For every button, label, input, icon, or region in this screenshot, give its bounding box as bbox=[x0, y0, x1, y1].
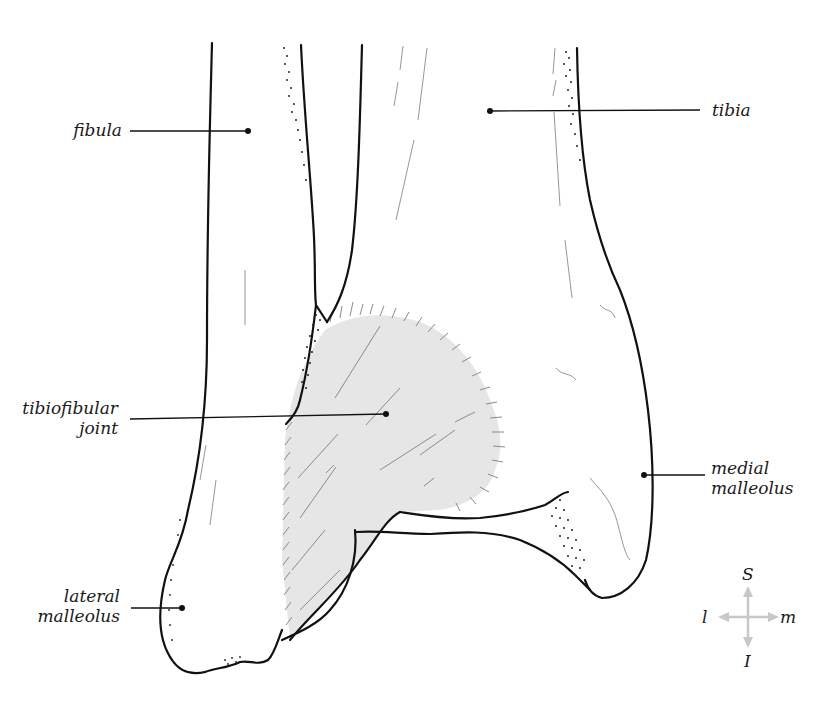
label-tibiofibular-line2: joint bbox=[0, 418, 118, 438]
ankle-bones-illustration bbox=[0, 0, 823, 704]
label-lateral-line1: lateral bbox=[0, 586, 120, 606]
compass-medial-label: m bbox=[780, 608, 796, 626]
label-tibia: tibia bbox=[712, 100, 751, 120]
label-medial-malleolus: medial malleolus bbox=[711, 458, 794, 498]
label-fibula: fibula bbox=[30, 120, 122, 140]
compass-inferior-label: I bbox=[744, 652, 751, 670]
label-tibiofibular-joint: tibiofibular joint bbox=[0, 398, 118, 438]
label-medial-line2: malleolus bbox=[711, 478, 794, 498]
compass-lateral-label: l bbox=[702, 608, 707, 626]
tibia-leader bbox=[490, 110, 700, 111]
label-lateral-line2: malleolus bbox=[0, 606, 120, 626]
label-tibiofibular-line1: tibiofibular bbox=[0, 398, 118, 418]
label-lateral-malleolus: lateral malleolus bbox=[0, 586, 120, 626]
arrow-down-icon bbox=[743, 637, 753, 648]
arrow-left-icon bbox=[718, 612, 729, 622]
label-medial-line1: medial bbox=[711, 458, 794, 478]
anatomy-figure: fibula tibia tibiofibular joint medial m… bbox=[0, 0, 823, 704]
compass-superior-label: S bbox=[742, 565, 754, 583]
tibiofibular-joint-region bbox=[282, 315, 500, 640]
arrow-right-icon bbox=[768, 612, 779, 622]
arrow-up-icon bbox=[743, 586, 753, 597]
orientation-compass-arrows bbox=[718, 586, 779, 648]
